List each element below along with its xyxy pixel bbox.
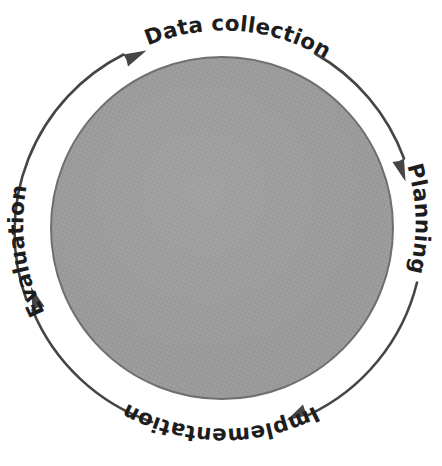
cycle-diagram: Data collection Planning Implementation … [0,0,442,466]
cycle-diagram-canvas: Data collection Planning Implementation … [0,0,442,466]
center-circle [51,57,393,399]
